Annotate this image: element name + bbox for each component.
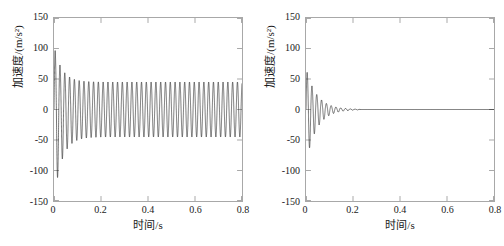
y-tick-labels-right: 150 100 50 0 -50 -100 -150 — [252, 17, 302, 202]
y-tick-labels-left: 150 100 50 0 -50 -100 -150 — [0, 17, 50, 202]
x-axis-title-left: 时间/s — [53, 218, 243, 232]
y-tick-label: 50 — [290, 74, 300, 84]
x-axis-title-right: 时间/s — [305, 218, 495, 232]
x-tick-label: 0.2 — [346, 204, 359, 216]
y-tick-label: 100 — [285, 43, 300, 53]
y-tick-label: 0 — [43, 105, 48, 115]
waveform-right — [306, 18, 494, 201]
y-tick-label: 0 — [295, 105, 300, 115]
x-tick-label: 0 — [303, 204, 308, 216]
y-tick-label: 150 — [285, 12, 300, 22]
y-tick-label: -50 — [35, 135, 48, 145]
plot-area-right — [305, 17, 495, 202]
x-tick-label: 0.4 — [142, 204, 155, 216]
x-tick-label: 0.6 — [189, 204, 202, 216]
panel-right: 150 100 50 0 -50 -100 -150 0 0.2 0.4 0.6… — [252, 0, 504, 246]
y-tick-label: -100 — [30, 166, 48, 176]
y-tick-label: 150 — [33, 12, 48, 22]
x-tick-label: 0.4 — [394, 204, 407, 216]
figure-two-panel-acceleration-plots: 150 100 50 0 -50 -100 -150 0 0.2 0.4 0.6… — [0, 0, 504, 246]
y-tick-label: -150 — [30, 197, 48, 207]
x-tick-label: 0.8 — [237, 204, 250, 216]
y-axis-title-left: 加速度/(m/s²) — [12, 0, 25, 117]
x-tick-label: 0.8 — [489, 204, 502, 216]
x-tick-label: 0 — [51, 204, 56, 216]
y-tick-label: -150 — [282, 197, 300, 207]
y-tick-label: -50 — [287, 135, 300, 145]
waveform-left — [54, 18, 242, 201]
panel-left: 150 100 50 0 -50 -100 -150 0 0.2 0.4 0.6… — [0, 0, 252, 246]
y-tick-label: -100 — [282, 166, 300, 176]
plot-area-left — [53, 17, 243, 202]
x-tick-labels-left: 0 0.2 0.4 0.6 0.8 — [53, 204, 243, 218]
y-axis-title-right: 加速度/(m/s²) — [264, 0, 277, 117]
x-tick-labels-right: 0 0.2 0.4 0.6 0.8 — [305, 204, 495, 218]
x-tick-label: 0.2 — [94, 204, 107, 216]
y-tick-label: 50 — [38, 74, 48, 84]
y-tick-label: 100 — [33, 43, 48, 53]
x-tick-label: 0.6 — [441, 204, 454, 216]
